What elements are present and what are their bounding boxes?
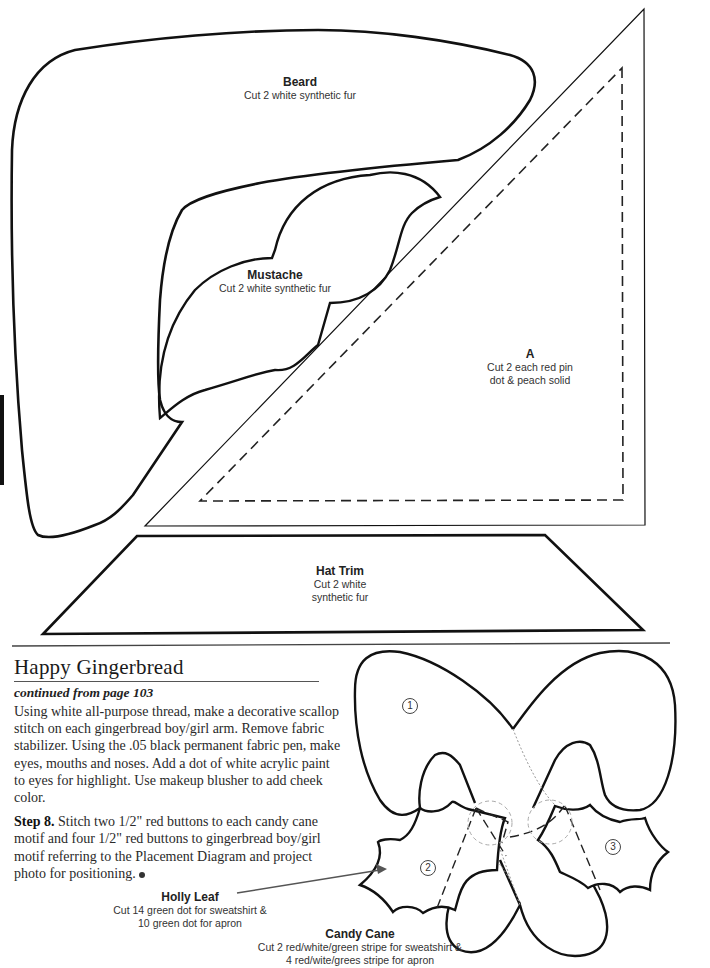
candy-cane-instructions-2: 4 red/wite/grees stripe for apron xyxy=(200,954,520,967)
holly-leaf-instructions-1: Cut 14 green dot for sweatshirt & xyxy=(90,904,290,917)
marker-1: 1 xyxy=(402,698,418,714)
mustache-label: Mustache Cut 2 white synthetic fur xyxy=(200,268,350,295)
hat-trim-title: Hat Trim xyxy=(290,564,390,578)
article-paragraph: Using white all-purpose thread, make a d… xyxy=(14,703,344,806)
beard-title: Beard xyxy=(210,75,390,89)
mustache-title: Mustache xyxy=(200,268,350,282)
holly-leaf-title: Holly Leaf xyxy=(90,890,290,904)
beard-label: Beard Cut 2 white synthetic fur xyxy=(210,75,390,102)
article: Happy Gingerbread continued from page 10… xyxy=(14,655,344,889)
holly-leaf-3-outline xyxy=(538,805,668,892)
step-label: Step 8. xyxy=(14,814,54,829)
candy-cane-2-outline xyxy=(513,651,675,810)
piece-a-instructions-2: dot & peach solid xyxy=(470,374,590,387)
piece-a-label: A Cut 2 each red pin dot & peach solid xyxy=(470,347,590,387)
marker-3: 3 xyxy=(605,839,621,855)
piece-a-instructions-1: Cut 2 each red pin xyxy=(470,361,590,374)
section-divider xyxy=(12,643,670,646)
candy-cane-1-outline xyxy=(355,651,513,815)
marker-2: 2 xyxy=(420,860,436,876)
step-text: Stitch two 1/2" red buttons to each cand… xyxy=(14,814,321,881)
continued-note: continued from page 103 xyxy=(14,685,344,701)
hat-trim-instructions-2: synthetic fur xyxy=(290,591,390,604)
piece-a-title: A xyxy=(470,347,590,361)
article-title: Happy Gingerbread xyxy=(14,655,319,682)
candy-cane-title: Candy Cane xyxy=(200,927,520,941)
beard-instructions: Cut 2 white synthetic fur xyxy=(210,89,390,102)
hat-trim-instructions-1: Cut 2 white xyxy=(290,578,390,591)
hat-trim-label: Hat Trim Cut 2 white synthetic fur xyxy=(290,564,390,604)
end-mark-icon xyxy=(139,872,145,878)
step-8-paragraph: Step 8. Stitch two 1/2" red buttons to e… xyxy=(14,813,344,882)
candy-cane-instructions-1: Cut 2 red/white/green stripe for sweatsh… xyxy=(200,941,520,954)
mustache-instructions: Cut 2 white synthetic fur xyxy=(200,282,350,295)
holly-leaf-2-outline xyxy=(360,802,505,913)
mustache-outline xyxy=(159,172,440,418)
page-edge-shadow xyxy=(0,395,4,485)
candy-cane-label: Candy Cane Cut 2 red/white/green stripe … xyxy=(200,927,520,967)
holly-leaf-label: Holly Leaf Cut 14 green dot for sweatshi… xyxy=(90,890,290,930)
